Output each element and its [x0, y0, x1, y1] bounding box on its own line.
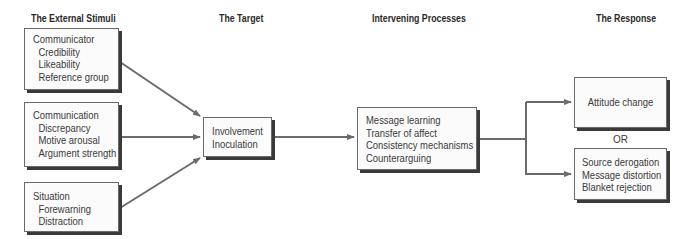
box-item: Argument strength — [33, 147, 110, 160]
box-rejection-responses: Source derogation Message distortion Bla… — [574, 148, 667, 200]
box-item: Transfer of affect — [366, 127, 465, 140]
box-item: Attitude change — [588, 96, 654, 109]
arrow-situation-to-target — [120, 158, 200, 208]
box-intervening-processes: Message learning Transfer of affect Cons… — [357, 107, 477, 170]
box-title: Situation — [33, 190, 110, 203]
box-item: Blanket rejection — [582, 181, 658, 194]
box-item: Involvement — [212, 125, 265, 138]
box-item: Likeability — [33, 58, 110, 71]
box-communication: Communication Discrepancy Motive arousal… — [24, 102, 119, 167]
arrow-communicator-to-target — [120, 62, 200, 116]
box-item: Forewarning — [33, 203, 110, 216]
box-item: Consistency mechanisms — [366, 139, 465, 152]
box-item: Counterarguing — [366, 152, 465, 165]
or-label: OR — [613, 134, 628, 145]
box-title: Communication — [33, 109, 110, 122]
box-item: Reference group — [33, 71, 110, 84]
box-item: Motive arousal — [33, 134, 110, 147]
box-item: Distraction — [33, 215, 110, 228]
box-item: Message learning — [366, 114, 465, 127]
box-item: Credibility — [33, 46, 110, 59]
box-item: Message distortion — [582, 169, 658, 182]
box-title: Communicator — [33, 33, 110, 46]
box-attitude-change: Attitude change — [574, 77, 667, 128]
box-situation: Situation Forewarning Distraction — [24, 182, 119, 232]
box-item: Discrepancy — [33, 122, 110, 135]
box-item: Inoculation — [212, 138, 265, 151]
box-target: Involvement Inoculation — [203, 117, 272, 157]
box-communicator: Communicator Credibility Likeability Ref… — [24, 28, 119, 90]
box-item: Source derogation — [582, 156, 658, 169]
